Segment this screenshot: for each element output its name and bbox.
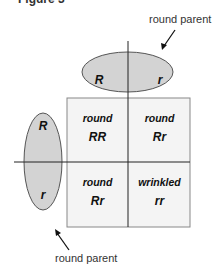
cell-phenotype: wrinkled <box>129 173 190 192</box>
left-allele-1: R <box>33 119 53 133</box>
top-allele-2: r <box>150 73 170 87</box>
left-allele-2: r <box>33 188 53 202</box>
cell-genotype: RR <box>67 128 128 147</box>
top-allele-1: R <box>89 73 109 87</box>
cell-genotype: Rr <box>129 128 190 147</box>
grid-cell-rr: wrinkled rr <box>129 173 190 211</box>
cell-genotype: Rr <box>67 192 128 211</box>
top-arrow-icon <box>161 30 175 50</box>
top-parent-label: round parent <box>149 13 211 25</box>
cell-genotype: rr <box>129 192 190 211</box>
cell-phenotype: round <box>67 109 128 128</box>
cell-phenotype: round <box>129 109 190 128</box>
grid-cell-Rr-top: round Rr <box>129 109 190 147</box>
grid-cell-RR: round RR <box>67 109 128 147</box>
bottom-arrow-icon <box>55 229 69 250</box>
grid-cell-Rr-bottom: round Rr <box>67 173 128 211</box>
cell-phenotype: round <box>67 173 128 192</box>
left-parent-label: round parent <box>55 252 117 264</box>
